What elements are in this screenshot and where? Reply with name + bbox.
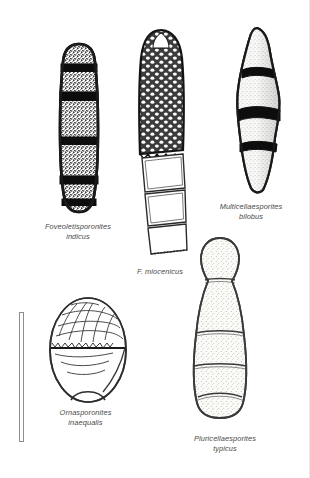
- label-pluricellaesporites-typicus: Pluricellaesporites typicus: [162, 434, 288, 453]
- label-genus: Pluricellaesporites: [162, 434, 288, 444]
- label-foveoletisporonites-indicus: Foveoletisporonites indicus: [8, 222, 148, 241]
- label-ornasporonites-inaequalis: Ornasporonites inaequalis: [28, 408, 143, 427]
- label-species: typicus: [162, 444, 288, 454]
- specimen-foveoletisporonites-indicus: [55, 42, 103, 214]
- label-genus: Foveoletisporonites: [8, 222, 148, 232]
- label-genus: Ornasporonites: [28, 408, 143, 418]
- specimen-drawing: [185, 235, 255, 420]
- label-species: miocenicus: [145, 267, 183, 276]
- label-species: bilobus: [192, 212, 310, 222]
- label-species: inaequalis: [28, 418, 143, 428]
- label-genus: Multicellaesporites: [192, 202, 310, 212]
- specimen-pluricellaesporites-typicus: [185, 235, 255, 420]
- illustration-plate: Foveoletisporonites indicus F. miocenicu…: [0, 0, 310, 478]
- specimen-multicellaesporites-bilobus: [230, 26, 286, 194]
- label-genus: F.: [137, 267, 143, 276]
- specimen-f-miocenicus: [132, 28, 190, 256]
- label-multicellaesporites-bilobus: Multicellaesporites bilobus: [192, 202, 310, 221]
- specimen-drawing: [230, 26, 286, 194]
- label-species: indicus: [8, 232, 148, 242]
- scale-bar: [19, 312, 24, 442]
- specimen-ornasporonites-inaequalis: [47, 296, 129, 404]
- specimen-drawing: [55, 42, 103, 214]
- specimen-drawing: [47, 296, 129, 404]
- specimen-drawing: [132, 28, 190, 256]
